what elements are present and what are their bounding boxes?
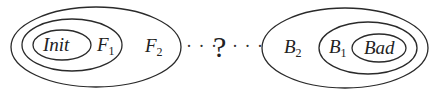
forward-reachable-group: Init F1 F2 [11, 7, 181, 87]
question-mark: ? [213, 30, 226, 63]
init-label: Init [42, 34, 70, 55]
b2-label: B2 [284, 36, 302, 60]
connector: · · · ? · · · [186, 30, 264, 63]
f2-label: F2 [144, 35, 163, 59]
f1-label: F1 [96, 34, 115, 58]
backward-reachable-group: B2 B1 Bad [262, 8, 428, 88]
nested-sets-diagram: Init F1 F2 · · · ? · · · B2 B1 Bad [0, 0, 440, 95]
b1-label: B1 [329, 36, 347, 60]
right-ellipsis: · · · [232, 36, 264, 56]
bad-label: Bad [364, 37, 395, 58]
